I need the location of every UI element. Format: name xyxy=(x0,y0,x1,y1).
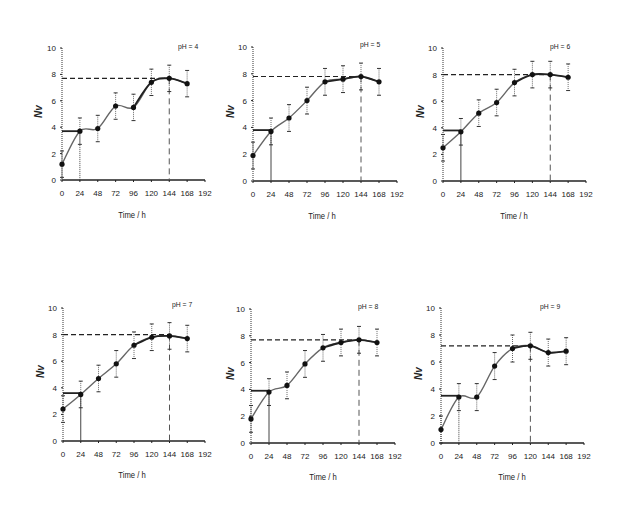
data-point xyxy=(564,349,569,354)
x-tick-label: 72 xyxy=(490,452,499,461)
x-tick-label: 24 xyxy=(454,452,463,461)
x-axis-title: Time / h xyxy=(478,472,546,482)
x-tick-label: 48 xyxy=(472,452,481,461)
data-point xyxy=(510,346,515,351)
data-curve xyxy=(441,345,566,429)
y-tick-label: 0 xyxy=(431,439,436,448)
data-point xyxy=(492,363,497,368)
data-point xyxy=(528,343,533,348)
x-tick-label: 96 xyxy=(508,452,517,461)
x-tick-label: 144 xyxy=(542,452,556,461)
x-tick-label: 168 xyxy=(559,452,573,461)
x-tick-label: 192 xyxy=(577,452,591,461)
x-tick-label: 0 xyxy=(439,452,444,461)
y-tick-label: 4 xyxy=(431,385,436,394)
chart-svg: 0246810024487296120144168192 xyxy=(0,0,624,514)
data-point xyxy=(474,395,479,400)
data-point xyxy=(546,350,551,355)
y-tick-label: 2 xyxy=(431,412,436,421)
chart-panel-ph9: 0246810024487296120144168192 pH = 9 Nv T… xyxy=(0,0,624,514)
data-point xyxy=(438,427,443,432)
y-tick-label: 6 xyxy=(431,358,436,367)
ph-label: pH = 9 xyxy=(540,302,560,311)
y-axis-title: Nv xyxy=(413,362,424,386)
data-point xyxy=(456,395,461,400)
y-tick-label: 8 xyxy=(431,331,436,340)
plateau-curve xyxy=(513,346,567,353)
x-tick-label: 120 xyxy=(524,452,538,461)
y-tick-label: 10 xyxy=(426,304,435,313)
